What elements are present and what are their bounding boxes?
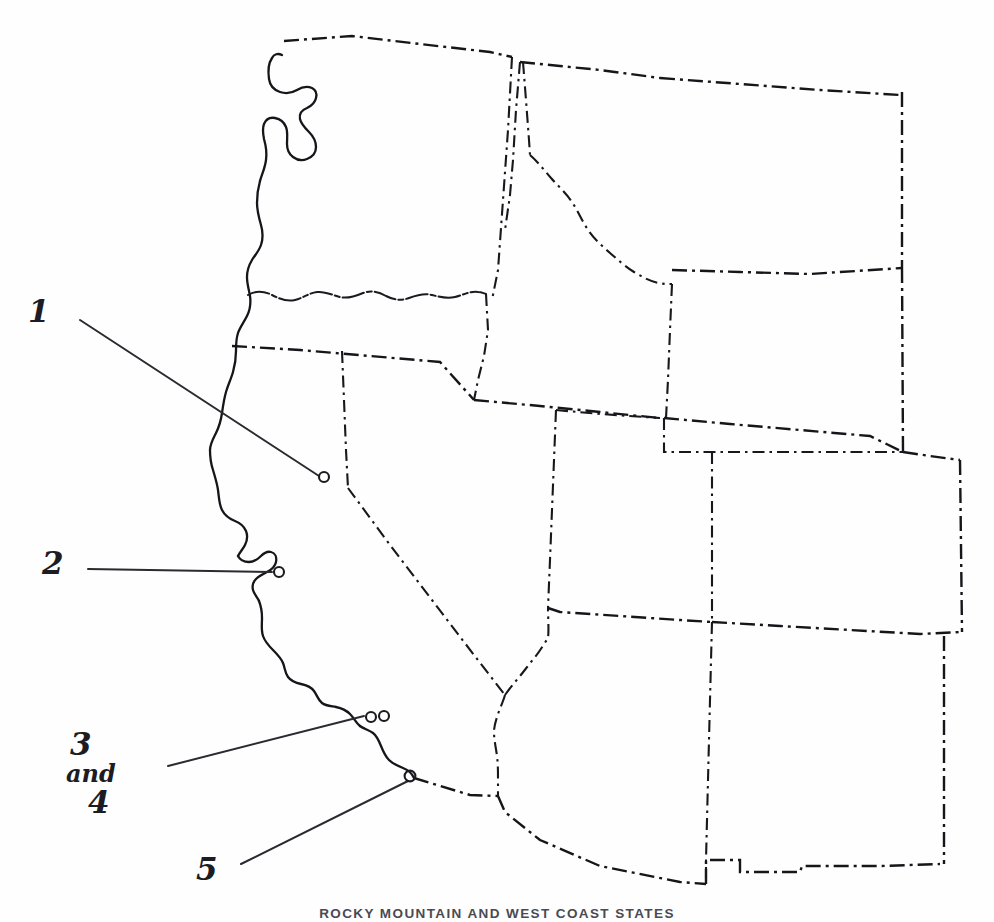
border-idaho-montana — [530, 155, 672, 284]
figure-caption: ROCKY MOUNTAIN AND WEST COAST STATES — [0, 906, 994, 922]
border-wyoming-south — [664, 418, 903, 452]
site-marker-1[interactable] — [319, 472, 329, 482]
western-states-outline-map — [0, 0, 994, 922]
border-montana-canada — [660, 78, 900, 95]
border-idaho-montana-canada — [520, 62, 660, 78]
figure-page: 1 2 3 and 4 5 ROCKY MOUNTAIN AND WEST CO… — [0, 0, 994, 922]
site-label-and: and — [66, 761, 116, 786]
border-nevada-california-diagonal — [348, 488, 505, 695]
site-marker-3[interactable] — [366, 712, 376, 722]
site-label-3: 3 — [66, 728, 116, 761]
site-label-1: 1 — [28, 296, 50, 327]
border-colorado-east — [960, 460, 962, 632]
border-nevada-utah — [548, 410, 556, 608]
site-marker-2[interactable] — [274, 567, 284, 577]
coastline-northern-california — [210, 450, 247, 556]
leader-line-5 — [241, 781, 408, 864]
border-newmexico-mexico — [706, 860, 940, 884]
border-washington-oregon — [248, 292, 486, 301]
border-wyoming-east — [902, 268, 903, 452]
coastline-central-california — [259, 601, 360, 726]
border-arizona-newmexico — [706, 622, 712, 884]
coastline-southern-california — [360, 726, 414, 778]
border-colorado-newmexico — [712, 622, 962, 634]
leader-line-2 — [88, 569, 272, 572]
border-idaho-wyoming — [666, 284, 672, 418]
border-california-arizona — [494, 695, 505, 796]
site-label-2: 2 — [42, 548, 64, 579]
coastline-san-francisco-bay — [238, 552, 276, 601]
site-marker-4[interactable] — [379, 711, 389, 721]
border-oregon-idaho — [474, 294, 488, 400]
border-arizona-mexico — [498, 796, 706, 884]
border-washington-idaho — [492, 57, 512, 300]
border-colorado-north — [903, 452, 960, 460]
border-nevada-california-vertical — [342, 351, 348, 488]
border-washington-canada — [284, 36, 512, 57]
border-montana-wyoming — [672, 268, 902, 274]
border-oregon-south — [232, 346, 474, 400]
coastline-washington-oregon-outer — [236, 181, 263, 351]
site-label-4: 4 — [66, 786, 116, 819]
site-label-3-and-4: 3 and 4 — [66, 728, 116, 819]
coastline-washington — [260, 54, 316, 181]
leader-line-3-and-4 — [168, 716, 364, 766]
site-label-5: 5 — [196, 854, 218, 885]
leader-line-1 — [80, 320, 319, 476]
coastline-oregon — [210, 351, 236, 450]
border-idaho-montana-upper — [523, 62, 530, 155]
border-nevada-arizona — [505, 608, 548, 695]
border-oregon-idaho-upper — [505, 62, 520, 230]
border-utah-arizona — [548, 608, 712, 622]
border-california-mexico — [414, 778, 498, 796]
